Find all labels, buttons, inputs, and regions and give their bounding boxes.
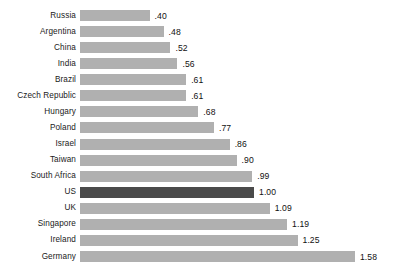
category-label: Russia [50, 11, 76, 19]
bar-track [80, 155, 237, 166]
category-label: Ireland [50, 236, 76, 244]
bar-row: Germany1.58 [0, 251, 400, 262]
value-label: .61 [191, 75, 203, 84]
bar-track [80, 171, 252, 182]
bar-row: South Africa.99 [0, 171, 400, 182]
value-label: .68 [203, 108, 215, 117]
bar-row: Poland.77 [0, 122, 400, 133]
value-label: .61 [191, 92, 203, 101]
category-label: Israel [55, 140, 76, 148]
bar-track [80, 122, 214, 133]
value-label: 1.19 [292, 220, 309, 229]
bar-row: US1.00 [0, 187, 400, 198]
category-label: Brazil [55, 76, 76, 84]
bar-track [80, 42, 170, 53]
category-label: Singapore [38, 220, 76, 228]
bar-fill [80, 251, 355, 262]
bar-fill [80, 42, 170, 53]
value-label: .40 [155, 11, 167, 20]
category-label: China [54, 44, 76, 52]
bar-row: China.52 [0, 42, 400, 53]
bar-track [80, 106, 198, 117]
value-label: .48 [169, 27, 181, 36]
bar-row: Singapore1.19 [0, 219, 400, 230]
bar-track [80, 139, 230, 150]
bar-fill [80, 90, 186, 101]
bar-fill [80, 106, 198, 117]
bar-row: Brazil.61 [0, 74, 400, 85]
value-label: .90 [242, 156, 254, 165]
category-label: US [64, 188, 76, 196]
bar-fill [80, 122, 214, 133]
bar-fill [80, 219, 287, 230]
value-label: 1.09 [275, 204, 292, 213]
bar-fill [80, 74, 186, 85]
category-label: Czech Republic [17, 92, 76, 100]
category-label: Taiwan [50, 156, 76, 164]
value-label: .99 [257, 172, 269, 181]
value-label: .52 [175, 43, 187, 52]
category-label: Poland [50, 124, 76, 132]
bar-track [80, 203, 270, 214]
category-label: Hungary [44, 108, 76, 116]
category-label: Germany [42, 252, 76, 260]
bar-fill [80, 10, 150, 21]
value-label: .77 [219, 124, 231, 133]
bar-row: Russia.40 [0, 10, 400, 21]
value-label: 1.25 [303, 236, 320, 245]
bar-track [80, 235, 298, 246]
bar-track [80, 187, 254, 198]
bar-fill [80, 203, 270, 214]
category-label: UK [64, 204, 76, 212]
bar-row: India.56 [0, 58, 400, 69]
bar-track [80, 90, 186, 101]
value-label: .56 [182, 59, 194, 68]
bar-row: Israel.86 [0, 139, 400, 150]
bar-track [80, 10, 150, 21]
bar-fill [80, 139, 230, 150]
bar-fill [80, 155, 237, 166]
bar-row: UK1.09 [0, 203, 400, 214]
bar-fill [80, 58, 177, 69]
bar-track [80, 74, 186, 85]
category-label: South Africa [31, 172, 76, 180]
bar-fill [80, 26, 164, 37]
bar-row: Czech Republic.61 [0, 90, 400, 101]
value-label: 1.58 [360, 252, 377, 261]
bar-chart: Russia.40Argentina.48China.52India.56Bra… [0, 0, 400, 276]
bar-row: Argentina.48 [0, 26, 400, 37]
bar-row: Ireland1.25 [0, 235, 400, 246]
bar-track [80, 58, 177, 69]
category-label: Argentina [40, 27, 76, 35]
bar-row: Taiwan.90 [0, 155, 400, 166]
value-label: .86 [235, 140, 247, 149]
value-label: 1.00 [259, 188, 276, 197]
bar-track [80, 26, 164, 37]
bar-track [80, 219, 287, 230]
bar-fill [80, 171, 252, 182]
category-label: India [58, 60, 76, 68]
bar-fill [80, 235, 298, 246]
bar-track [80, 251, 355, 262]
bar-fill [80, 187, 254, 198]
bar-row: Hungary.68 [0, 106, 400, 117]
